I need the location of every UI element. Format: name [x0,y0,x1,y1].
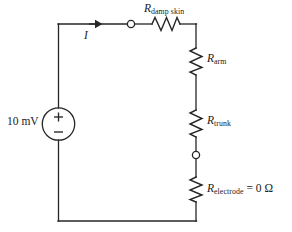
circuit-schematic-svg [0,0,292,232]
resistor-damp-skin-subscript: damp skin [151,7,184,16]
resistor-electrode-subscript: electrode [214,187,244,196]
resistor-electrode-value: = 0 Ω [244,182,273,194]
resistor-arm-label: Rarm [207,53,226,66]
current-arrow-icon [89,20,103,28]
resistor-trunk-symbol: R [207,114,214,126]
resistor-electrode-label: Relectrode = 0 Ω [207,183,273,196]
node-right-open-circle [192,151,199,158]
source-polarity-marks [54,113,63,133]
source-value-label: 10 mV [7,116,39,128]
circuit-diagram: 10 mV I Rdamp skin Rarm Rtrunk Relectrod… [0,0,292,232]
resistor-arm-subscript: arm [214,57,226,66]
resistor-damp-skin-symbol: R [144,2,151,14]
resistor-electrode-symbol: R [207,182,214,194]
resistor-trunk-label: Rtrunk [207,115,231,128]
resistor-trunk-zigzag [190,110,202,137]
resistor-arm-zigzag [190,48,202,75]
resistor-damp-skin-zigzag [152,18,180,31]
resistor-arm-symbol: R [207,52,214,64]
resistor-damp-skin-label: Rdamp skin [144,3,184,16]
resistor-trunk-subscript: trunk [214,119,231,128]
current-label: I [84,30,88,42]
resistor-electrode-zigzag [190,177,202,202]
node-top-open-circle [127,20,134,27]
